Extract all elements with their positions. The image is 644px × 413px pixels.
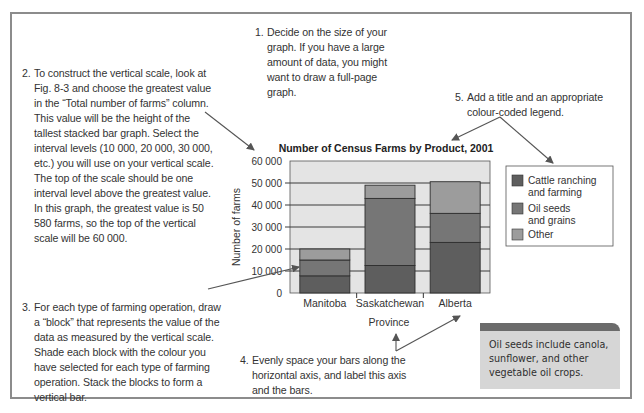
chart-title: Number of Census Farms by Product, 2001: [279, 142, 494, 154]
arrow-step-2: [205, 112, 254, 150]
y-tick-label: 0: [276, 288, 282, 299]
y-tick-label: 10 000: [251, 266, 282, 277]
legend-swatch-cattle: [512, 175, 523, 186]
bar-segment-cattle: [365, 266, 415, 294]
legend-label: Other: [528, 229, 554, 240]
legend-label: Cattle ranching: [528, 175, 597, 186]
x-axis-label: Province: [369, 316, 410, 328]
x-tick-label: Manitoba: [303, 297, 346, 309]
arrow-step-5-legend: [500, 117, 553, 163]
bar-segment-other: [430, 182, 480, 214]
legend-swatch-other: [512, 229, 523, 240]
legend-label: Oil seeds: [528, 203, 570, 214]
bar-segment-oilseeds: [365, 198, 415, 265]
bar-segment-oilseeds: [300, 260, 350, 276]
x-tick-label: Saskatchewan: [356, 297, 424, 309]
arrow-step-5-title: [452, 117, 500, 140]
bar-segment-oilseeds: [430, 213, 480, 242]
bar-segment-cattle: [430, 242, 480, 293]
legend: Cattle ranchingand farmingOil seedsand g…: [506, 166, 613, 246]
stacked-bar-chart: Number of Census Farms by Product, 2001 …: [0, 0, 644, 413]
y-tick-label: 60 000: [251, 156, 282, 167]
y-tick-label: 20 000: [251, 244, 282, 255]
y-tick-label: 50 000: [251, 178, 282, 189]
y-tick-label: 30 000: [251, 222, 282, 233]
y-axis-label: Number of farms: [230, 188, 242, 266]
legend-label: and farming: [528, 187, 582, 198]
y-tick-label: 40 000: [251, 200, 282, 211]
legend-label: and grains: [528, 215, 576, 226]
bar-segment-cattle: [300, 276, 350, 293]
legend-swatch-oilseeds: [512, 203, 523, 214]
bar-segment-other: [365, 185, 415, 198]
bar-segment-other: [300, 249, 350, 260]
x-tick-label: Alberta: [439, 297, 472, 309]
